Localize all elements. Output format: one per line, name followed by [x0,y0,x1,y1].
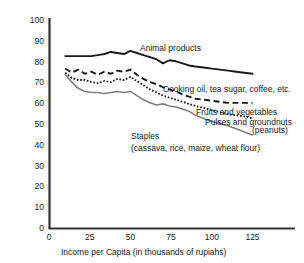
y-tick-label: 100 [30,15,44,25]
x-tick-label: 25 [85,232,95,242]
series-line-animal-products [65,51,252,74]
y-tick-label: 80 [35,57,45,67]
y-axis-tick-labels: 100 90 80 70 60 50 40 30 20 10 0 [30,15,44,233]
chart-container: 100 90 80 70 60 50 40 30 20 10 0 0 25 50… [0,0,304,263]
y-tick-label: 20 [35,181,45,191]
x-axis-title: Income per Capita (in thousands of rupia… [61,247,227,257]
x-tick-label: 0 [47,232,52,242]
y-tick-label: 60 [35,98,45,108]
y-tick-label: 50 [35,119,45,129]
y-tick-label: 0 [39,223,44,233]
y-tick-label: 90 [35,36,45,46]
x-tick-label: 50 [126,232,136,242]
x-tick-label: 100 [205,232,219,242]
line-chart: 100 90 80 70 60 50 40 30 20 10 0 0 25 50… [0,0,304,263]
label-cooking-oil: Cooking oil, tea sugar, coffee, etc. [163,84,291,94]
y-tick-label: 70 [35,77,45,87]
label-staples-detail: (cassava, rice, maize, wheat flour) [131,143,260,153]
y-tick-label: 40 [35,140,45,150]
label-animal-products: Animal products [140,43,201,53]
label-fruits-and-vegetables: Fruits and vegetables [196,107,277,117]
label-pulses-and-groundnuts-peanuts: (peanuts) [252,125,288,135]
x-axis-tick-labels: 0 25 50 75 100 125 [47,232,260,242]
x-tick-label: 125 [245,232,259,242]
x-tick-label: 75 [166,232,176,242]
y-tick-label: 10 [35,202,45,212]
label-staples: Staples [131,131,159,141]
y-tick-label: 30 [35,161,45,171]
